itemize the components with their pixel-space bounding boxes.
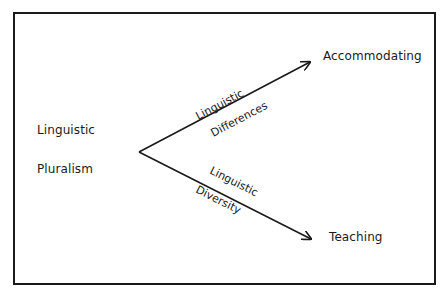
target-teaching: Teaching: [329, 230, 383, 244]
target-accommodating: Accommodating: [323, 49, 422, 63]
source-label-line2: Pluralism: [37, 162, 93, 176]
source-label-line1: Linguistic: [37, 123, 95, 137]
branch-arrows: [0, 0, 448, 294]
